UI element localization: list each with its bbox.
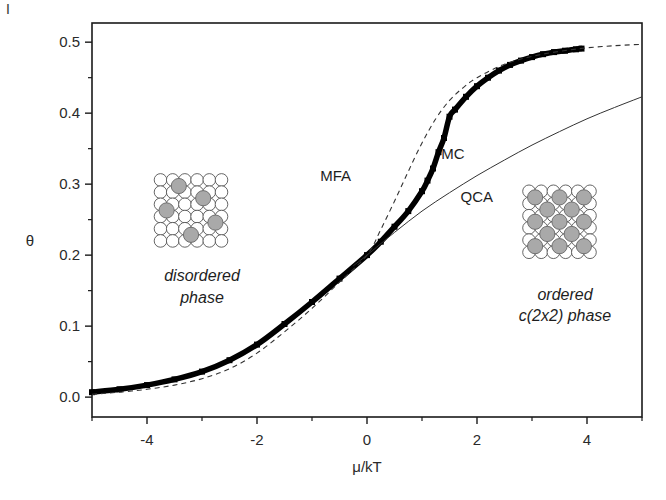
adsorbate [540,226,555,241]
adsorbate [528,214,543,229]
disordered-lattice [154,174,228,248]
y-tick-label: 0.5 [59,33,80,50]
x-axis-title: μ/kT [352,458,381,475]
series-mc-point [405,208,411,214]
substrate-atom [191,174,204,187]
adsorbate [540,202,555,217]
x-tick-label: 4 [583,431,591,448]
corner-mark: I [6,1,10,17]
substrate-atom [154,174,167,187]
series-mc-point [485,75,491,81]
y-tick-label: 0.4 [59,104,80,121]
y-axis: 0.00.10.20.30.40.5 [59,33,92,405]
series-mc-point [227,357,233,363]
substrate-atom [203,174,216,187]
series-mc-point [430,166,436,172]
substrate-atom [179,198,192,211]
y-axis-title: θ [26,232,34,249]
annotation-qca: QCA [461,188,494,205]
series-mc-point [282,321,288,327]
x-tick-label: 2 [473,431,481,448]
substrate-atom [166,222,179,235]
adsorbate [183,227,198,242]
series-mc-point [507,62,513,68]
series-mc-point [144,382,150,388]
series-mc-point [496,68,502,74]
annotation-disordered-line2: phase [179,289,224,306]
x-tick-label: -2 [250,431,263,448]
substrate-atom [215,186,228,199]
series-mc-point [452,107,458,113]
series-mc-point [441,135,447,141]
series-mc-point [392,224,398,230]
series-qca-line [353,97,642,266]
substrate-atom [215,174,228,187]
series-mc-point [419,188,425,194]
adsorbate [564,226,579,241]
adsorbate [576,239,591,254]
annotation-disordered-line1: disordered [164,267,241,284]
series-mc-point [309,299,315,305]
chart: I 0.00.10.20.30.40.5 -4-2024 MFAMCQCAdis… [0,0,666,500]
series-mc-point [117,386,123,392]
adsorbate [196,191,211,206]
substrate-atom [154,222,167,235]
adsorbate [171,178,186,193]
series-mc-point [172,376,178,382]
series-mc-point [425,178,431,184]
adsorbate [552,239,567,254]
adsorbate [576,190,591,205]
substrate-atom [191,210,204,223]
annotation-mc: MC [441,145,464,162]
adsorbate [159,203,174,218]
adsorbate [208,215,223,230]
substrate-atom [215,235,228,248]
y-tick-label: 0.0 [59,388,80,405]
series-mc-point [254,342,260,348]
adsorbate [552,190,567,205]
adsorbate [576,214,591,229]
adsorbate [552,214,567,229]
x-tick-label: -4 [140,431,153,448]
series-mc-point [447,114,453,120]
series-mc-point [474,83,480,89]
adsorbate [528,190,543,205]
annotation-ordered-line1: ordered [537,286,593,303]
substrate-atom [203,235,216,248]
adsorbate [564,202,579,217]
adsorbate [528,239,543,254]
ordered-lattice [523,185,597,259]
substrate-atom [166,235,179,248]
x-axis: -4-2024 [92,417,642,448]
substrate-atom [215,198,228,211]
substrate-atom [154,235,167,248]
substrate-atom [154,186,167,199]
annotation-mfa: MFA [320,167,351,184]
y-tick-label: 0.3 [59,175,80,192]
series-mc-point [199,369,205,375]
x-tick-label: 0 [363,431,371,448]
y-tick-label: 0.1 [59,317,80,334]
annotation-ordered-line2: c(2x2) phase [519,307,612,324]
substrate-atom [179,210,192,223]
series-mc-point [463,94,469,100]
y-tick-label: 0.2 [59,246,80,263]
